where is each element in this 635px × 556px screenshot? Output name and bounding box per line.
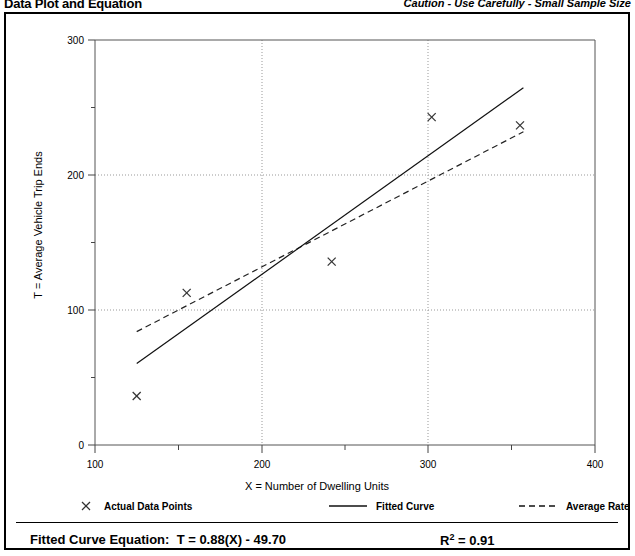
data-point-marker	[516, 121, 524, 129]
svg-text:100: 100	[87, 459, 104, 470]
svg-text:100: 100	[67, 305, 84, 316]
chart-frame: 300 200 100 0 100	[4, 12, 630, 550]
equation-label: Fitted Curve Equation:	[30, 532, 169, 547]
fitted-curve-equation: Fitted Curve Equation: T = 0.88(X) - 49.…	[30, 532, 286, 547]
legend-divider	[16, 522, 618, 523]
svg-text:300: 300	[420, 459, 437, 470]
chart-legend: Actual Data Points Fitted Curve Average …	[6, 499, 628, 523]
data-point-marker	[328, 258, 336, 266]
data-point-marker	[183, 289, 191, 297]
chart-page: Data Plot and Equation Caution - Use Car…	[0, 0, 635, 556]
data-point-marker	[133, 392, 141, 400]
equation-expression: T = 0.88(X) - 49.70	[177, 532, 286, 547]
data-point-marker	[428, 113, 436, 121]
y-axis-ticks	[88, 40, 95, 445]
x-marker-icon	[72, 499, 106, 513]
average-rate-line	[137, 132, 524, 332]
scatter-plot-svg: 300 200 100 0 100	[6, 14, 628, 484]
legend-label-actual-data-points: Actual Data Points	[104, 501, 192, 512]
r-squared-value: R2 = 0.91	[440, 532, 495, 548]
x-tick-labels: 100 200 300 400	[87, 459, 604, 470]
svg-text:0: 0	[78, 440, 84, 451]
fitted-curve-line	[137, 88, 524, 364]
r2-label: R	[440, 533, 449, 548]
r2-number: = 0.91	[458, 533, 495, 548]
x-axis-ticks	[95, 445, 595, 453]
legend-label-average-rate: Average Rate	[566, 501, 630, 512]
svg-text:200: 200	[67, 170, 84, 181]
plot-area: 300 200 100 0 100	[6, 14, 628, 494]
svg-text:400: 400	[587, 459, 604, 470]
y-tick-labels: 300 200 100 0	[67, 35, 84, 451]
svg-text:300: 300	[67, 35, 84, 46]
dashed-line-icon	[511, 499, 557, 513]
data-points	[133, 113, 524, 400]
plot-frame	[95, 40, 595, 445]
page-title: Data Plot and Equation	[4, 0, 142, 11]
y-axis-title: T = Average Vehicle Trip Ends	[32, 105, 44, 345]
caution-note: Caution - Use Carefully - Small Sample S…	[404, 0, 631, 9]
r2-exponent: 2	[449, 532, 454, 542]
svg-text:200: 200	[254, 459, 271, 470]
equation-row: Fitted Curve Equation: T = 0.88(X) - 49.…	[6, 530, 628, 556]
solid-line-icon	[321, 499, 367, 513]
x-axis-title: X = Number of Dwelling Units	[6, 480, 628, 492]
legend-label-fitted-curve: Fitted Curve	[376, 501, 434, 512]
gridlines	[95, 40, 595, 445]
